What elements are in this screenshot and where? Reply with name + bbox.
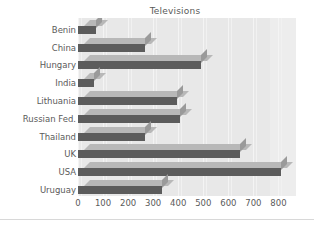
x-axis-tick-200: 200	[120, 198, 136, 208]
y-axis-label-india: India	[2, 78, 76, 88]
x-axis-tick-500: 500	[195, 198, 211, 208]
x-axis-tick-100: 100	[95, 198, 111, 208]
x-axis-tick-800: 800	[270, 198, 286, 208]
plot-area	[78, 18, 296, 196]
x-axis-tick-600: 600	[220, 198, 236, 208]
x-axis-tick-700: 700	[245, 198, 261, 208]
y-axis-label-lithuania: Lithuania	[2, 96, 76, 106]
bar-front-face	[78, 186, 162, 194]
y-axis-label-uruguay: Uruguay	[2, 185, 76, 195]
y-axis-label-russian-fed: Russian Fed.	[2, 114, 76, 124]
y-axis-label-china: China	[2, 43, 76, 53]
x-axis-tick-400: 400	[170, 198, 186, 208]
y-axis-label-thailand: Thailand	[2, 132, 76, 142]
y-axis-label-benin: Benin	[2, 25, 76, 35]
y-axis-label-usa: USA	[2, 167, 76, 177]
y-axis-label-uk: UK	[2, 149, 76, 159]
chart-title: Televisions	[0, 6, 314, 16]
y-axis-labels: BeninChinaHungaryIndiaLithuaniaRussian F…	[0, 18, 76, 196]
bar-uruguay[interactable]	[78, 18, 296, 196]
chart-container: Televisions BeninChinaHungaryIndiaLithua…	[0, 0, 314, 226]
y-axis-label-hungary: Hungary	[2, 60, 76, 70]
chart-title-text: Televisions	[150, 6, 201, 16]
x-axis-labels: 0100200300400500600700800	[0, 198, 314, 212]
x-axis-tick-300: 300	[145, 198, 161, 208]
x-axis-tick-0: 0	[75, 198, 80, 208]
bottom-divider	[0, 219, 314, 226]
